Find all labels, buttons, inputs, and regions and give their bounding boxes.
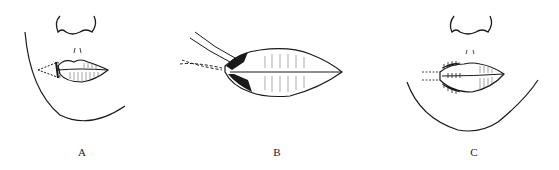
panel-label-a: A — [72, 146, 92, 158]
panel-b: B — [170, 0, 380, 170]
panel-c: C — [380, 0, 559, 170]
face-illustration-a — [0, 0, 180, 170]
face-illustration-c — [380, 0, 559, 170]
panel-a: A — [0, 0, 180, 170]
lip-detail-illustration-b — [170, 0, 380, 170]
panel-label-b: B — [267, 146, 287, 158]
panel-label-c: C — [464, 146, 484, 158]
